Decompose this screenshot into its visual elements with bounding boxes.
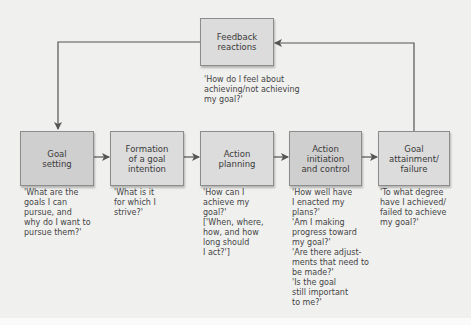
bottom-margin: [0, 318, 471, 325]
feedback-reactions-box: Feedback reactions: [200, 18, 274, 66]
goal-attainment-box: Goal attainment/ failure: [378, 131, 450, 186]
action-initiation-question: 'How well have I enacted my plans?' 'Am …: [292, 188, 369, 308]
action-planning-label: Action planning: [219, 149, 256, 169]
goal-setting-label: Goal setting: [42, 149, 71, 169]
goal-attainment-label: Goal attainment/ failure: [389, 144, 439, 174]
goal-intention-question: 'What is it for which I strive?': [114, 188, 156, 218]
action-planning-question: 'How can I achieve my goal?' ['When, whe…: [203, 188, 264, 258]
feedback-reactions-label: Feedback reactions: [217, 32, 257, 52]
feedback-question: 'How do I feel about achieving/not achie…: [204, 75, 300, 105]
goal-attainment-question: 'To what degree have I achieved/ failed …: [380, 188, 446, 228]
action-initiation-label: Action initiation and control: [301, 144, 349, 174]
goal-setting-question: 'What are the goals I can pursue, and wh…: [24, 188, 91, 238]
action-initiation-box: Action initiation and control: [289, 131, 362, 186]
action-planning-box: Action planning: [200, 131, 274, 186]
goal-intention-label: Formation of a goal intention: [126, 144, 169, 174]
goal-intention-box: Formation of a goal intention: [110, 131, 184, 186]
goal-setting-box: Goal setting: [20, 131, 94, 186]
